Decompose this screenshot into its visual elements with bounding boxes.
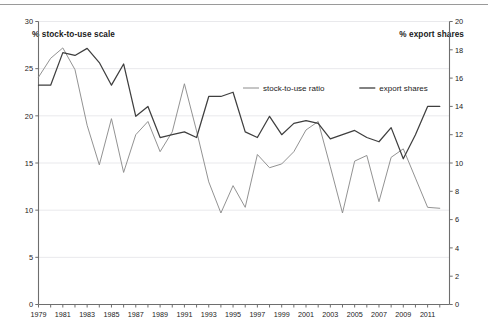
chart-legend: stock-to-use ratioexport shares	[243, 84, 428, 93]
y-axis-left-tick-label: 20	[25, 112, 33, 121]
x-axis-tick-label: 1981	[55, 310, 71, 319]
x-axis-tick-label: 1997	[249, 310, 265, 319]
x-axis-tick-label: 2003	[322, 310, 338, 319]
x-axis-tick-label: 2007	[371, 310, 387, 319]
series-line-stock-to-use-ratio	[39, 48, 440, 213]
x-axis-tick-label: 1989	[152, 310, 168, 319]
y-axis-right-tick-label: 14	[455, 102, 463, 111]
x-axis-tick-label: 1987	[128, 310, 144, 319]
x-axis-tick-label: 1979	[31, 310, 47, 319]
x-axis-tick-label: 2009	[395, 310, 411, 319]
y-axis-left-tick-label: 30	[25, 17, 33, 26]
y-axis-right-tick-label: 20	[455, 17, 463, 26]
grid-lines	[39, 22, 450, 258]
y-axis-right-tick-label: 4	[455, 244, 459, 253]
y-axis-left-tick-label: 5	[29, 253, 33, 262]
x-axis-tick-label: 1993	[201, 310, 217, 319]
x-axis-tick-label: 1999	[274, 310, 290, 319]
y-axis-right-tick-label: 8	[455, 187, 459, 196]
y-axis-right: 02468101214161820	[450, 17, 464, 309]
x-axis: 1979198119831985198719891991199319951997…	[31, 305, 450, 320]
y-axis-right-tick-label: 12	[455, 130, 463, 139]
y-axis-right-tick-label: 2	[455, 272, 459, 281]
data-series-layer	[39, 48, 440, 213]
chart-figure: % stock-to-use scale % export shares 197…	[0, 0, 488, 328]
x-axis-tick-label: 1995	[225, 310, 241, 319]
x-axis-tick-label: 2001	[298, 310, 314, 319]
y-axis-left-tick-label: 15	[25, 159, 33, 168]
y-axis-right-tick-label: 10	[455, 159, 463, 168]
x-axis-tick-label: 1983	[79, 310, 95, 319]
series-line-export-shares	[39, 48, 440, 158]
x-axis-tick-label: 2011	[420, 310, 435, 319]
y-axis-left-tick-label: 10	[25, 206, 33, 215]
legend-label-stock-to-use-ratio: stock-to-use ratio	[263, 84, 325, 93]
x-axis-tick-label: 2005	[347, 310, 363, 319]
y-axis-right-tick-label: 6	[455, 215, 459, 224]
x-axis-tick-label: 1991	[176, 310, 192, 319]
y-axis-right-tick-label: 0	[455, 300, 459, 309]
y-axis-left-tick-label: 0	[29, 300, 33, 309]
x-axis-tick-label: 1985	[103, 310, 119, 319]
y-axis-left-tick-label: 25	[25, 64, 33, 73]
y-axis-right-tick-label: 18	[455, 46, 463, 55]
y-axis-right-tick-label: 16	[455, 74, 463, 83]
y-axis-left: 051015202530	[25, 17, 39, 309]
legend-label-export-shares: export shares	[379, 84, 427, 93]
line-chart-plot: 1979198119831985198719891991199319951997…	[0, 0, 488, 328]
